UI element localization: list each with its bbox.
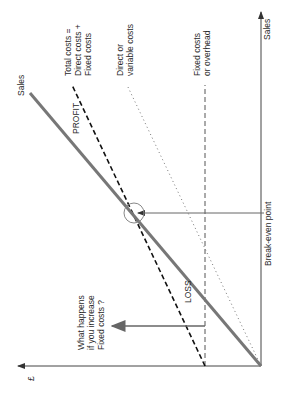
total-costs-label-2: Direct costs +: [73, 24, 83, 76]
question-label-2: if you increase: [86, 295, 96, 350]
question-label-3: Fixed costs ?: [96, 300, 106, 350]
total-costs-label-3: Fixed costs: [83, 33, 93, 76]
sales-line-label: Sales: [16, 75, 26, 96]
loss-label: LOSS: [183, 280, 193, 303]
question-label-1: What happens: [76, 295, 86, 350]
sales-axis-label: Sales: [262, 19, 272, 40]
variable-costs-line: [127, 85, 261, 366]
break-even-label: Break-even point: [263, 201, 273, 266]
total-costs-label-1: Total costs =: [63, 28, 73, 76]
sales-line: [30, 93, 261, 366]
fixed-costs-label-1: Fixed costs: [192, 33, 202, 76]
profit-label: PROFIT: [71, 103, 81, 134]
money-axis-label: £: [26, 376, 36, 381]
direct-costs-label-2: variable costs: [125, 24, 135, 76]
direct-costs-label-1: Direct or: [115, 44, 125, 76]
break-even-chart: Sales Total costs = Direct costs + Fixed…: [0, 0, 293, 406]
fixed-costs-label-2: or overhead: [202, 30, 212, 76]
